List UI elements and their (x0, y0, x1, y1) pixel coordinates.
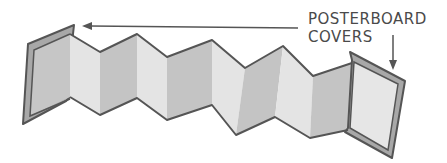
panel-2 (70, 34, 100, 115)
label-covers: COVERS (308, 29, 373, 46)
arrow-down-head (389, 60, 397, 70)
panel-3 (100, 34, 137, 115)
arrow-left-line (90, 26, 298, 28)
label-posterboard: POSTERBOARD (308, 11, 427, 28)
arrow-left-head (82, 22, 92, 30)
panel-4 (137, 34, 167, 120)
